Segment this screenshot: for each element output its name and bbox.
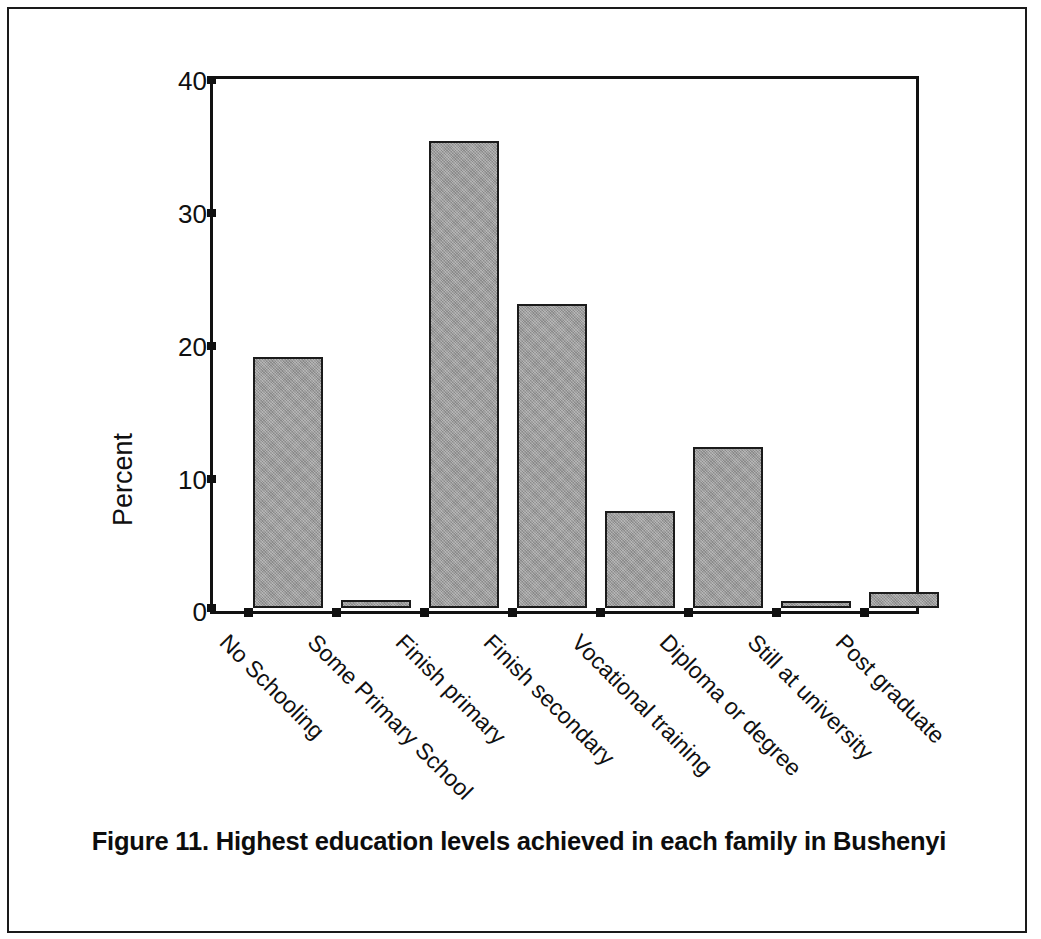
y-tick-label-10: 10 (147, 467, 207, 493)
figure-frame: 40 30 20 10 0 Percent (7, 7, 1027, 933)
bar-finish-secondary (517, 304, 587, 608)
y-tick-label-0: 0 (147, 599, 207, 625)
bar-vocational-training (605, 511, 675, 608)
bar-no-schooling (253, 357, 323, 608)
x-label-some-primary-school: Some Primary School (302, 629, 478, 805)
y-axis: 40 30 20 10 0 (139, 9, 207, 819)
y-axis-title: Percent (108, 400, 139, 560)
bar-diploma-or-degree (693, 447, 763, 608)
bar-finish-primary (429, 141, 499, 608)
x-tick-mark-1 (244, 608, 253, 617)
x-tick-mark-3 (420, 608, 429, 617)
bars-layer (213, 79, 916, 608)
figure-caption: Figure 11. Highest education levels achi… (9, 827, 1029, 856)
y-tick-label-20: 20 (147, 334, 207, 360)
bar-still-at-university (781, 601, 851, 608)
y-tick-label-40: 40 (147, 68, 207, 94)
bar-chart: 40 30 20 10 0 Percent (9, 9, 1029, 819)
y-tick-label-30: 30 (147, 201, 207, 227)
bar-post-graduate (869, 592, 939, 608)
x-tick-mark-5 (596, 608, 605, 617)
x-tick-mark-7 (772, 608, 781, 617)
x-tick-mark-2 (332, 608, 341, 617)
x-tick-mark-6 (684, 608, 693, 617)
x-tick-mark-4 (508, 608, 517, 617)
x-tick-mark-8 (860, 608, 869, 617)
bar-some-primary-school (341, 600, 411, 608)
